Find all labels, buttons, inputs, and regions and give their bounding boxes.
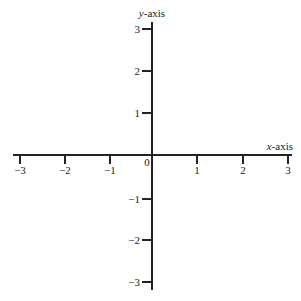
y-tick-label: 1 bbox=[135, 107, 141, 119]
x-tick-label: 2 bbox=[240, 164, 246, 176]
y-tick-label: −3 bbox=[128, 276, 140, 288]
coordinate-plane: −3 −2 −1 1 2 3 3 2 1 −1 −2 −3 0 x-axis y… bbox=[0, 0, 301, 301]
y-tick-label: −1 bbox=[128, 193, 140, 205]
y-tick-label: −2 bbox=[128, 234, 140, 246]
x-tick-label: −2 bbox=[59, 164, 71, 176]
x-axis-label: x-axis bbox=[266, 140, 293, 152]
x-tick-label: −3 bbox=[14, 164, 26, 176]
x-tick-label: −1 bbox=[104, 164, 116, 176]
y-tick-label: 3 bbox=[135, 23, 141, 35]
x-tick-label: 3 bbox=[285, 164, 291, 176]
x-ticks bbox=[20, 155, 288, 164]
y-axis-label: y-axis bbox=[138, 7, 165, 19]
origin-label: 0 bbox=[144, 156, 150, 168]
x-tick-label: 1 bbox=[194, 164, 200, 176]
y-tick-label: 2 bbox=[135, 65, 141, 77]
